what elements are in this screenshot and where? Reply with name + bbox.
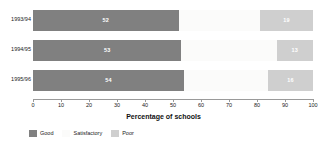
x-axis-tick-label: 90: [282, 103, 288, 109]
x-axis-tick-label: 50: [170, 103, 176, 109]
legend-item-satisfactory[interactable]: Satisfactory: [62, 130, 102, 137]
plot-area: 52 19 53 13 54: [33, 6, 313, 96]
x-axis-tick-label: 40: [142, 103, 148, 109]
legend-label: Good: [40, 131, 53, 137]
bar-row: 52 19: [33, 10, 313, 31]
x-axis-tick-label: 70: [226, 103, 232, 109]
bar-segment-poor: 13: [277, 40, 313, 61]
bar-segment-satisfactory: [184, 70, 268, 91]
bar-segment-good: 54: [33, 70, 184, 91]
bar-value-label: 53: [104, 48, 111, 54]
category-label-1995-96: 1995/96: [0, 77, 31, 83]
bar-value-label: 16: [287, 78, 294, 84]
bar-value-label: 19: [283, 18, 290, 24]
bar-row: 53 13: [33, 40, 313, 61]
legend-label: Satisfactory: [73, 131, 102, 137]
x-axis-tick-label: 60: [198, 103, 204, 109]
bar-segment-satisfactory: [179, 10, 260, 31]
x-axis-tick-label: 0: [31, 103, 34, 109]
bar-value-label: 13: [292, 48, 299, 54]
legend: Good Satisfactory Poor: [29, 130, 134, 137]
legend-swatch-icon: [111, 130, 119, 137]
category-label-1993-94: 1993/94: [0, 17, 31, 23]
x-axis-tick-label: 20: [86, 103, 92, 109]
bar-segment-poor: 16: [268, 70, 313, 91]
bar-segment-poor: 19: [260, 10, 313, 31]
x-axis-tick-label: 80: [254, 103, 260, 109]
x-axis-tick-label: 10: [58, 103, 64, 109]
legend-item-good[interactable]: Good: [29, 130, 53, 137]
legend-item-poor[interactable]: Poor: [111, 130, 134, 137]
bar-row: 54 16: [33, 70, 313, 91]
legend-swatch-icon: [62, 130, 70, 137]
x-axis-tick-label: 100: [308, 103, 317, 109]
bar-value-label: 52: [103, 18, 110, 24]
bar-value-label: 54: [105, 78, 112, 84]
legend-swatch-icon: [29, 130, 37, 137]
category-label-1994-95: 1994/95: [0, 47, 31, 53]
bar-segment-satisfactory: [181, 40, 276, 61]
bar-segment-good: 52: [33, 10, 179, 31]
x-axis-tick-label: 30: [114, 103, 120, 109]
legend-label: Poor: [122, 131, 134, 137]
bar-segment-good: 53: [33, 40, 181, 61]
stacked-bar-chart: 1993/94 1994/95 1995/96 52 19 53 13: [0, 0, 327, 152]
x-axis-title: Percentage of schools: [0, 113, 327, 120]
